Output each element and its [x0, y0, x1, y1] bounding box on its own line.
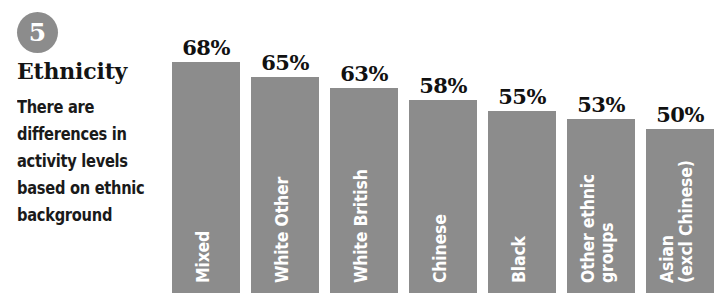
bar: Other ethnicgroups: [567, 119, 635, 293]
bar: Asian(excl Chinese): [646, 129, 714, 293]
infographic-panel: 5 Ethnicity There are differences in act…: [0, 0, 725, 305]
bar-chart: 68%Mixed65%White Other63%White British58…: [168, 0, 725, 305]
bar-value-label: 58%: [419, 73, 467, 98]
bar-value-label: 68%: [182, 35, 230, 60]
bar-value-label: 65%: [261, 50, 309, 75]
bar-category-label: Other ethnicgroups: [579, 174, 617, 283]
bar-category-label: White Other: [273, 177, 292, 283]
info-panel: 5 Ethnicity There are differences in act…: [0, 0, 168, 305]
page-title: Ethnicity: [17, 58, 127, 84]
bar-category-label: Asian(excl Chinese): [658, 160, 696, 283]
bar-category-label: Black: [510, 236, 529, 283]
bar-value-label: 53%: [577, 92, 625, 117]
bar-value-label: 50%: [656, 102, 704, 127]
bar-group: 63%White British: [330, 88, 398, 293]
bar-value-label: 63%: [340, 61, 388, 86]
bar-group: 55%Black: [488, 111, 556, 293]
bar: White British: [330, 88, 398, 293]
bar: White Other: [251, 77, 319, 293]
bar-group: 53%Other ethnicgroups: [567, 119, 635, 293]
bar-value-label: 55%: [498, 84, 546, 109]
bar-category-label: Mixed: [194, 231, 213, 283]
bar-category-label: White British: [352, 169, 371, 283]
bar: Black: [488, 111, 556, 293]
bar: Mixed: [172, 62, 240, 293]
bar-group: 65%White Other: [251, 77, 319, 293]
description-text: There are differences in activity levels…: [17, 94, 147, 229]
step-number-badge: 5: [17, 12, 58, 53]
bar-category-label: Chinese: [431, 214, 450, 283]
bar: Chinese: [409, 100, 477, 293]
bar-group: 68%Mixed: [172, 62, 240, 293]
bar-group: 50%Asian(excl Chinese): [646, 129, 714, 293]
bar-group: 58%Chinese: [409, 100, 477, 293]
